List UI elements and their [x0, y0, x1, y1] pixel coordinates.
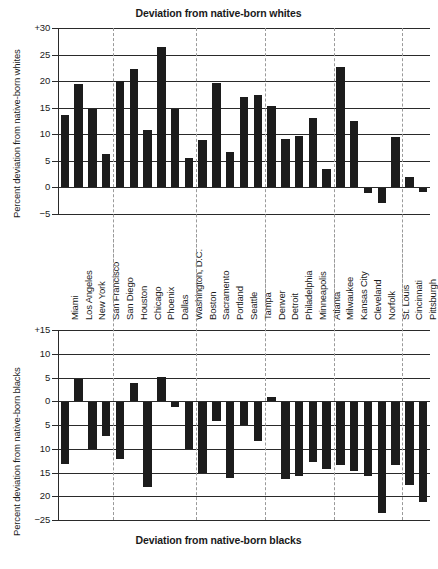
y-tick-label: 5: [22, 419, 50, 430]
gridline: [58, 520, 430, 521]
x-axis-category-label: Chicago: [152, 287, 163, 320]
bar: [378, 187, 387, 202]
bar: [116, 81, 125, 187]
y-tick-label: 15: [22, 102, 50, 113]
bar: [212, 401, 221, 420]
chart-title-blacks: Deviation from native-born blacks: [0, 534, 437, 546]
bar: [378, 401, 387, 513]
bar: [226, 152, 235, 187]
x-axis-category-label: Portland: [234, 286, 245, 320]
y-axis-label-whites: Percent deviation from native-born white…: [11, 49, 22, 218]
plot-area-whites: [58, 28, 430, 214]
group-divider: [196, 234, 197, 520]
x-axis-category-label: Atlanta: [331, 292, 342, 320]
bar: [405, 177, 414, 187]
bar: [322, 401, 331, 468]
bar: [350, 121, 359, 187]
bar: [74, 379, 83, 401]
bar: [391, 401, 400, 465]
x-axis-category-label: Denver: [276, 291, 287, 320]
chart-panel-blacks: Percent deviation from native-born black…: [0, 322, 437, 569]
y-tick-label: 20: [22, 490, 50, 501]
x-axis-category-label: Boston: [207, 292, 218, 320]
y-tick-mark: [52, 354, 58, 355]
group-divider: [334, 234, 335, 520]
x-axis-category-labels: MiamiLos AngelesNew YorkSan FranciscoSan…: [0, 232, 437, 332]
y-tick-label: 0: [22, 395, 50, 406]
y-tick-label: 10: [22, 348, 50, 359]
x-axis-category-label: San Francisco: [110, 262, 121, 320]
bar: [226, 401, 235, 477]
y-tick-label: 15: [22, 467, 50, 478]
x-axis-category-label: Norfolk: [386, 291, 397, 320]
y-tick-label: 0: [22, 181, 50, 192]
bar: [102, 154, 111, 187]
bar: [295, 401, 304, 476]
bar: [240, 97, 249, 187]
bar: [198, 140, 207, 188]
x-axis-category-label: Houston: [138, 286, 149, 320]
bar: [391, 137, 400, 187]
y-tick-label: 5: [22, 155, 50, 166]
bar: [157, 377, 166, 402]
x-axis-category-label: Seattle: [248, 292, 259, 320]
y-tick-label: 10: [22, 128, 50, 139]
bar: [116, 401, 125, 458]
x-axis-category-label: Dallas: [179, 295, 190, 320]
bar: [143, 401, 152, 487]
x-axis-category-label: Tampa: [262, 292, 273, 320]
x-axis-category-label: Los Angeles: [83, 270, 94, 320]
y-tick-mark: [52, 330, 58, 331]
bar: [185, 158, 194, 188]
y-axis-label-blacks: Percent deviation from native-born black…: [11, 367, 22, 536]
bar: [254, 401, 263, 441]
y-tick-mark: [52, 425, 58, 426]
bar: [240, 401, 249, 425]
bar: [336, 67, 345, 188]
chart-panel-whites: Deviation from native-born whites Percen…: [0, 0, 437, 232]
y-tick-mark: [52, 81, 58, 82]
x-axis-category-label: Cleveland: [372, 280, 383, 320]
x-axis-category-label: Pittsburgh: [427, 279, 438, 320]
bar: [364, 401, 373, 476]
group-divider: [113, 234, 114, 520]
group-divider: [265, 234, 266, 520]
bar: [61, 401, 70, 464]
x-axis-category-label: Milwaukee: [344, 277, 355, 320]
bar: [88, 109, 97, 187]
y-tick-mark: [52, 496, 58, 497]
bar: [212, 83, 221, 188]
y-tick-mark: [52, 108, 58, 109]
y-tick-label: −5: [22, 208, 50, 219]
x-axis-category-label: Detroit: [289, 293, 300, 320]
y-tick-label: 25: [22, 49, 50, 60]
bar: [198, 401, 207, 473]
x-axis-category-label: Sacramento: [220, 271, 231, 320]
bar: [130, 383, 139, 401]
bar: [61, 115, 70, 187]
bar: [157, 47, 166, 187]
bar: [350, 401, 359, 470]
y-tick-mark: [52, 55, 58, 56]
x-axis-category-label: Minneapolis: [317, 272, 328, 321]
bar: [295, 136, 304, 187]
x-axis-category-label: San Diego: [124, 277, 135, 320]
bar: [171, 401, 180, 407]
group-divider: [402, 234, 403, 520]
x-axis-category-label: Kansas City: [358, 272, 369, 321]
bar: [171, 109, 180, 187]
bar: [130, 69, 139, 188]
bar: [405, 401, 414, 485]
bar: [322, 169, 331, 187]
bar: [309, 118, 318, 188]
y-tick-mark: [52, 161, 58, 162]
y-tick-label: +15: [22, 324, 50, 335]
y-tick-label: 20: [22, 75, 50, 86]
y-tick-label: +30: [22, 22, 50, 33]
chart-title-whites: Deviation from native-born whites: [0, 7, 437, 19]
bar: [267, 106, 276, 188]
bar: [281, 139, 290, 187]
bar: [74, 84, 83, 187]
bar: [88, 401, 97, 449]
bar: [364, 187, 373, 193]
